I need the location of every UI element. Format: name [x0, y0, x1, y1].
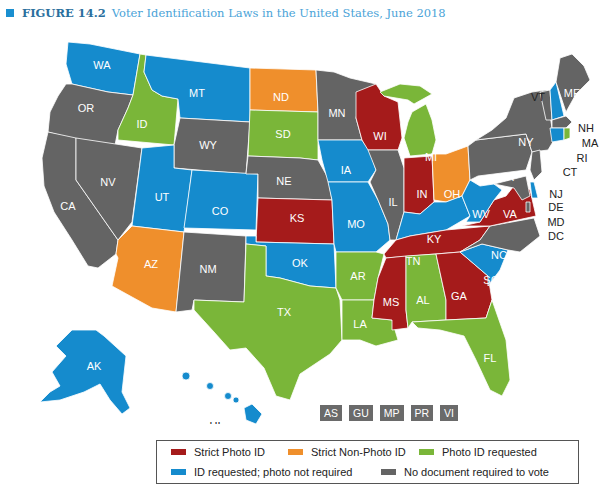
label-ca: CA [60, 200, 76, 212]
label-al: AL [416, 294, 429, 306]
label-il: IL [388, 196, 397, 208]
state-hi[interactable] [244, 404, 262, 424]
territory-as: AS [320, 405, 342, 421]
label-pa: PA [500, 171, 515, 183]
legend-label: ID requested; photo not required [194, 466, 352, 478]
us-map: WA OR CA NV ID MT WY UT CO AZ NM ND SD N… [0, 24, 612, 424]
label-ak: AK [87, 360, 102, 372]
label-la: LA [353, 318, 367, 330]
label-nj: NJ [549, 188, 562, 200]
label-nd: ND [273, 91, 289, 103]
label-ut: UT [155, 191, 170, 203]
state-mi-lower[interactable] [404, 104, 436, 156]
legend-swatch [419, 449, 434, 455]
legend-swatch [171, 469, 186, 475]
label-oh: OH [444, 188, 461, 200]
label-hi: HI [210, 420, 221, 424]
title-square-icon [6, 9, 14, 17]
label-de: DE [548, 201, 563, 213]
state-nj[interactable] [530, 150, 542, 180]
label-ms: MS [383, 296, 400, 308]
legend-swatch [288, 449, 303, 455]
label-wi: WI [373, 130, 386, 142]
label-ky: KY [427, 233, 442, 245]
state-ak[interactable] [40, 330, 130, 414]
label-me: ME [564, 87, 581, 99]
state-hi-island[interactable] [225, 393, 232, 400]
legend-item-id-requested: ID requested; photo not required [171, 466, 352, 478]
label-wv: WV [472, 208, 490, 220]
legend-label: Strict Photo ID [194, 446, 265, 458]
label-fl: FL [484, 352, 497, 364]
label-mt: MT [189, 87, 205, 99]
label-ar: AR [350, 270, 365, 282]
label-sc: SC [483, 274, 498, 286]
label-vt: VT [531, 91, 545, 103]
state-hi-island[interactable] [207, 383, 214, 390]
label-id: ID [137, 118, 148, 130]
label-wy: WY [199, 139, 217, 151]
label-ok: OK [292, 257, 309, 269]
state-hi-island[interactable] [233, 397, 239, 403]
label-nv: NV [100, 176, 116, 188]
figure-caption: Voter Identification Laws in the United … [112, 6, 446, 20]
label-in: IN [417, 188, 428, 200]
legend-swatch [171, 449, 186, 455]
state-dc[interactable] [526, 202, 530, 212]
legend-item-no-document: No document required to vote [381, 466, 549, 478]
label-co: CO [212, 205, 229, 217]
label-tx: TX [277, 306, 292, 318]
legend-item-strict-non-photo: Strict Non-Photo ID [288, 446, 406, 458]
label-va: VA [503, 208, 518, 220]
state-hi-island[interactable] [182, 372, 190, 380]
label-ma: MA [582, 137, 599, 149]
label-nm: NM [199, 263, 216, 275]
label-wa: WA [93, 59, 111, 71]
label-az: AZ [144, 258, 158, 270]
label-mi: MI [425, 151, 437, 163]
state-ri[interactable] [564, 128, 570, 140]
legend-label: Photo ID requested [442, 446, 537, 458]
label-ia: IA [341, 164, 352, 176]
legend-item-photo-requested: Photo ID requested [419, 446, 537, 458]
territory-vi: VI [440, 405, 458, 421]
legend-item-strict-photo: Strict Photo ID [171, 446, 265, 458]
territory-gu: GU [349, 405, 373, 421]
label-mn: MN [328, 107, 345, 119]
figure-title: FIGURE 14.2 Voter Identification Laws in… [6, 4, 446, 22]
label-tn: TN [406, 255, 421, 267]
territory-mp: MP [380, 405, 404, 421]
state-in[interactable] [404, 156, 434, 214]
legend-label: Strict Non-Photo ID [311, 446, 406, 458]
label-nc: NC [491, 249, 507, 261]
label-ct: CT [563, 166, 578, 178]
legend-swatch [381, 469, 396, 475]
territories: AS GU MP PR VI [320, 405, 458, 421]
label-ny: NY [518, 136, 534, 148]
state-co[interactable] [184, 170, 258, 230]
legend: Strict Photo ID Strict Non-Photo ID Phot… [156, 440, 579, 484]
label-md: MD [547, 216, 564, 228]
legend-label: No document required to vote [404, 466, 549, 478]
label-ri: RI [577, 152, 588, 164]
label-dc: DC [548, 230, 564, 242]
state-nd[interactable] [250, 68, 318, 112]
state-ct[interactable] [550, 128, 564, 142]
territory-pr: PR [411, 405, 434, 421]
label-mo: MO [347, 218, 365, 230]
label-nh: NH [578, 122, 594, 134]
label-or: OR [78, 102, 95, 114]
label-ks: KS [290, 212, 305, 224]
label-ne: NE [276, 175, 291, 187]
label-ga: GA [451, 290, 468, 302]
label-sd: SD [275, 128, 290, 140]
figure-label: FIGURE 14.2 [22, 6, 106, 20]
